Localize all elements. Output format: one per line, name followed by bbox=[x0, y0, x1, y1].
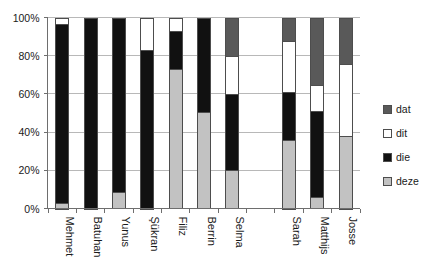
x-tick-label: Mehmet bbox=[64, 217, 76, 257]
bar-stack bbox=[198, 19, 211, 209]
bar-stack bbox=[340, 19, 353, 210]
bar-stack bbox=[113, 19, 126, 209]
legend-swatch bbox=[383, 105, 391, 113]
bar-segment bbox=[56, 19, 69, 25]
legend-label: deze bbox=[396, 175, 419, 187]
x-tick-label: Filiz bbox=[177, 217, 189, 237]
bar-segment bbox=[113, 19, 126, 193]
bar-stack bbox=[56, 19, 69, 210]
bar-segment bbox=[226, 57, 239, 95]
x-tick-label: Josse bbox=[347, 217, 359, 246]
bar-segment bbox=[340, 137, 353, 210]
y-tick-label: 60% bbox=[18, 88, 39, 100]
x-tick-label: Batuhan bbox=[92, 217, 104, 258]
bar-segment bbox=[226, 95, 239, 171]
y-tick-label: 20% bbox=[18, 164, 39, 176]
legend-label: dat bbox=[396, 103, 411, 115]
legend-label: dit bbox=[396, 127, 407, 139]
x-tick-label: Matthijs bbox=[319, 217, 331, 255]
y-tick-label: 80% bbox=[18, 50, 39, 62]
bar-segment bbox=[340, 64, 353, 137]
chart-canvas: 0%20%40%60%80%100% MehmetBatuhanYunusŞük… bbox=[0, 0, 439, 276]
bar-stack bbox=[226, 19, 239, 209]
bar-segment bbox=[311, 198, 324, 209]
bar-stack bbox=[170, 19, 183, 209]
bar-segment bbox=[340, 19, 353, 65]
bar-segment bbox=[85, 19, 98, 210]
bar-segment bbox=[283, 41, 296, 93]
bar-segment bbox=[56, 24, 69, 204]
x-tick-label: Sarah bbox=[291, 217, 303, 246]
legend-swatch bbox=[383, 153, 391, 161]
legend-swatch bbox=[383, 177, 391, 185]
bar-stack bbox=[85, 19, 98, 210]
bar-segment bbox=[311, 85, 324, 112]
legend-label: die bbox=[396, 151, 410, 163]
bar-segment bbox=[283, 141, 296, 210]
legend-swatch bbox=[383, 129, 391, 137]
bar-segment bbox=[198, 19, 211, 113]
y-tick-label: 0% bbox=[24, 203, 39, 215]
bar-segment bbox=[141, 51, 154, 210]
x-tick-label: Selma bbox=[234, 217, 246, 249]
bar-stack bbox=[283, 19, 296, 210]
bar-segment bbox=[141, 19, 154, 51]
bar-segment bbox=[113, 192, 126, 209]
bar-stack bbox=[311, 19, 324, 209]
bar-segment bbox=[283, 93, 296, 141]
bar-segment bbox=[170, 19, 183, 32]
y-tick-label: 100% bbox=[13, 12, 40, 24]
stacked-bar-chart: 0%20%40%60%80%100% MehmetBatuhanYunusŞük… bbox=[0, 0, 439, 276]
y-tick-label: 40% bbox=[18, 126, 39, 138]
x-tick-label: Yunus bbox=[120, 217, 132, 248]
bar-segment bbox=[198, 112, 211, 209]
bar-segment bbox=[311, 112, 324, 198]
bar-segment bbox=[311, 19, 324, 86]
bar-segment bbox=[170, 70, 183, 209]
x-tick-label: Berrin bbox=[206, 217, 218, 246]
bar-stack bbox=[141, 19, 154, 210]
bar-segment bbox=[170, 32, 183, 70]
x-tick-label: Şükran bbox=[149, 217, 161, 252]
bar-segment bbox=[226, 19, 239, 57]
bar-segment bbox=[226, 171, 239, 209]
bar-segment bbox=[283, 19, 296, 42]
